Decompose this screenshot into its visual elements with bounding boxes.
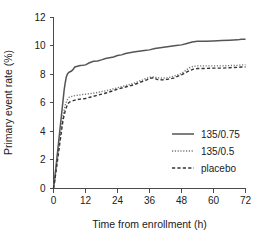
chart-figure: 024681012 0122436486072 Time from enroll… xyxy=(0,0,258,238)
line-chart: 024681012 0122436486072 Time from enroll… xyxy=(0,0,258,238)
x-tick-label: 36 xyxy=(144,195,156,206)
x-tick-label: 0 xyxy=(51,195,57,206)
y-tick-label: 6 xyxy=(40,97,46,108)
x-axis-title: Time from enrollment (h) xyxy=(92,218,207,230)
x-tick-label: 48 xyxy=(176,195,188,206)
x-tick-label: 24 xyxy=(112,195,124,206)
y-tick-label: 2 xyxy=(40,154,46,165)
x-tick-label: 72 xyxy=(240,195,252,206)
y-tick-label: 12 xyxy=(34,12,46,23)
y-tick-label: 8 xyxy=(40,69,46,80)
y-axis-title: Primary event rate (%) xyxy=(2,50,14,155)
chart-background xyxy=(0,0,258,238)
y-tick-label: 0 xyxy=(40,183,46,194)
x-tick-label: 12 xyxy=(80,195,92,206)
legend-label-placebo: placebo xyxy=(201,163,236,174)
legend-label-135-0-75: 135/0.75 xyxy=(201,129,240,140)
y-tick-label: 4 xyxy=(40,126,46,137)
y-tick-label: 10 xyxy=(34,40,46,51)
legend-label-135-0-5: 135/0.5 xyxy=(201,146,235,157)
x-tick-label: 60 xyxy=(208,195,220,206)
